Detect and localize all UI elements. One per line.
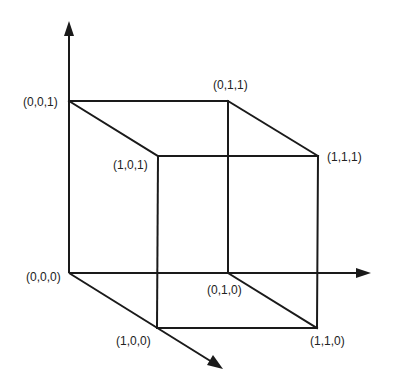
edge-011-111 (228, 101, 318, 156)
axes (64, 21, 371, 369)
label-010: (0,1,0) (207, 283, 242, 297)
edge-101-100 (157, 156, 158, 328)
label-001: (0,0,1) (23, 95, 58, 109)
y-axis-arrow-icon (356, 268, 371, 278)
cube-diagram: (0,0,1) (0,1,1) (1,0,1) (1,1,1) (0,0,0) … (0, 0, 395, 388)
label-011: (0,1,1) (213, 78, 248, 92)
vertex-labels: (0,0,1) (0,1,1) (1,0,1) (1,1,1) (0,0,0) … (23, 78, 362, 348)
label-101: (1,0,1) (113, 158, 148, 172)
z-axis-arrow-icon (64, 21, 74, 36)
label-111: (1,1,1) (327, 150, 362, 164)
label-100: (1,0,0) (116, 334, 151, 348)
edge-010-110 (228, 273, 317, 328)
label-000: (0,0,0) (26, 270, 61, 284)
x-axis (69, 273, 212, 362)
x-axis-arrow-icon (207, 355, 223, 369)
cube-edges (69, 101, 318, 328)
edge-111-110 (317, 156, 318, 328)
label-110: (1,1,0) (310, 334, 345, 348)
edge-001-101 (69, 101, 158, 156)
